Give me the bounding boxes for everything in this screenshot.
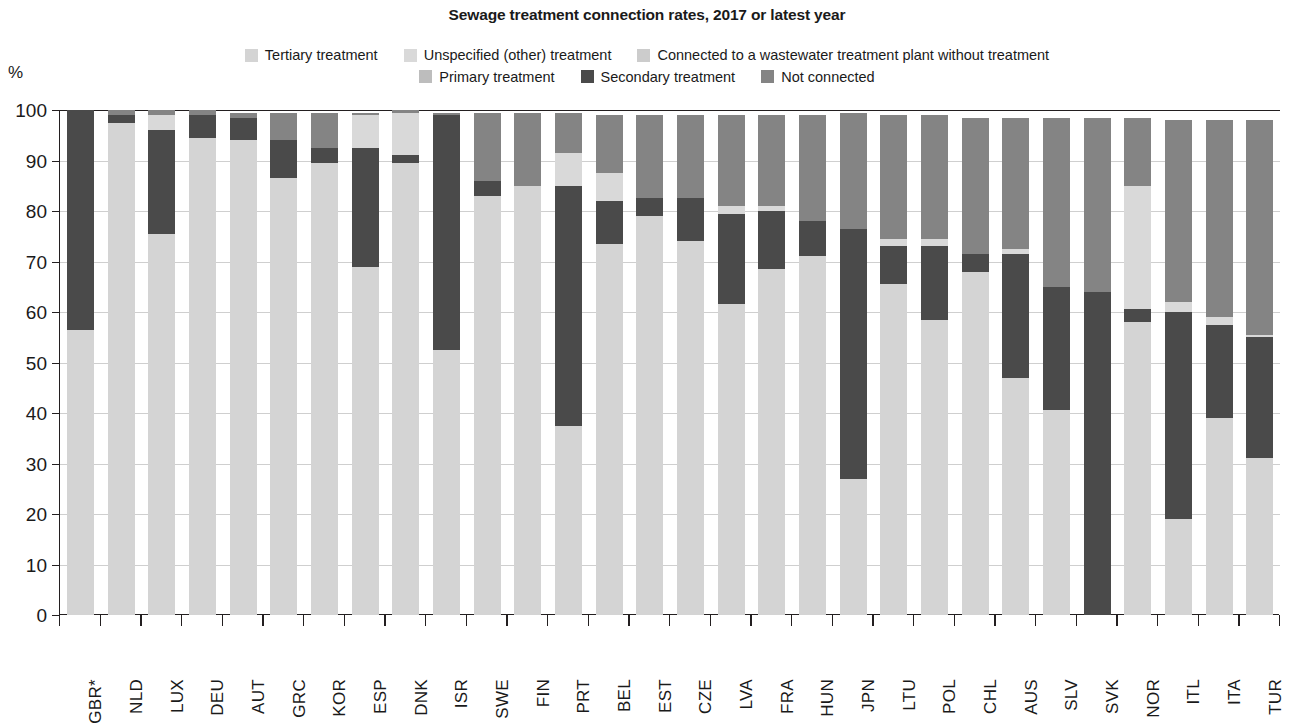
bar-segment[interactable] [148,130,175,234]
bar-segment[interactable] [718,206,745,214]
bar-segment[interactable] [67,110,94,330]
bar-group[interactable] [921,110,948,615]
bar-segment[interactable] [352,115,379,148]
bar-group[interactable] [230,110,257,615]
bar-segment[interactable] [1124,322,1151,615]
legend-item[interactable]: Not connected [761,70,875,85]
bar-segment[interactable] [392,155,419,163]
bar-segment[interactable] [108,123,135,615]
bar-segment[interactable] [1002,254,1029,378]
bar-group[interactable] [1124,110,1151,615]
bar-segment[interactable] [962,272,989,615]
bar-group[interactable] [433,110,460,615]
bar-segment[interactable] [433,115,460,350]
bar-group[interactable] [1165,110,1192,615]
bar-segment[interactable] [1206,325,1233,418]
bar-segment[interactable] [1165,302,1192,312]
bar-segment[interactable] [1246,335,1273,338]
bar-segment[interactable] [636,115,663,198]
bar-group[interactable] [555,110,582,615]
bar-segment[interactable] [474,196,501,615]
bar-segment[interactable] [1002,118,1029,249]
bar-segment[interactable] [189,115,216,138]
bar-segment[interactable] [1206,418,1233,615]
bar-segment[interactable] [311,163,338,615]
bar-group[interactable] [108,110,135,615]
bar-segment[interactable] [880,246,907,284]
bar-segment[interactable] [962,254,989,272]
bar-segment[interactable] [555,426,582,615]
bar-segment[interactable] [718,304,745,615]
bar-segment[interactable] [311,148,338,163]
bar-group[interactable] [1002,110,1029,615]
bar-segment[interactable] [352,113,379,116]
bar-segment[interactable] [718,214,745,305]
bar-segment[interactable] [270,140,297,178]
bar-segment[interactable] [433,350,460,615]
bar-group[interactable] [677,110,704,615]
bar-segment[interactable] [1002,249,1029,254]
bar-group[interactable] [1206,110,1233,615]
bar-segment[interactable] [799,256,826,615]
bar-segment[interactable] [1206,120,1233,317]
bar-segment[interactable] [1043,118,1070,287]
bar-segment[interactable] [1043,410,1070,615]
bar-segment[interactable] [1084,118,1111,292]
bar-segment[interactable] [840,229,867,479]
bar-segment[interactable] [636,198,663,216]
bar-segment[interactable] [189,110,216,115]
bar-segment[interactable] [1043,287,1070,411]
bar-segment[interactable] [108,115,135,123]
legend-item[interactable]: Secondary treatment [581,70,736,85]
bar-segment[interactable] [108,110,135,115]
bar-segment[interactable] [921,246,948,319]
bar-group[interactable] [352,110,379,615]
bar-segment[interactable] [758,211,785,269]
bar-segment[interactable] [799,115,826,221]
bar-group[interactable] [270,110,297,615]
bar-group[interactable] [596,110,623,615]
bar-segment[interactable] [718,115,745,206]
bar-segment[interactable] [474,181,501,196]
bar-segment[interactable] [474,113,501,181]
bar-segment[interactable] [880,115,907,239]
bar-segment[interactable] [555,113,582,153]
bar-segment[interactable] [311,113,338,148]
bar-segment[interactable] [596,201,623,244]
bar-segment[interactable] [840,113,867,229]
bar-segment[interactable] [636,216,663,615]
bar-segment[interactable] [352,267,379,615]
legend-item[interactable]: Tertiary treatment [245,48,378,63]
bar-group[interactable] [758,110,785,615]
bar-group[interactable] [189,110,216,615]
bar-segment[interactable] [352,148,379,267]
bar-segment[interactable] [270,113,297,141]
bar-segment[interactable] [758,115,785,206]
legend-item[interactable]: Unspecified (other) treatment [404,48,612,63]
bar-segment[interactable] [596,244,623,615]
bar-group[interactable] [636,110,663,615]
bar-group[interactable] [67,110,94,615]
bar-segment[interactable] [677,241,704,615]
bar-group[interactable] [1084,110,1111,615]
bar-segment[interactable] [758,269,785,615]
bar-group[interactable] [148,110,175,615]
bar-segment[interactable] [514,113,541,186]
bar-segment[interactable] [392,110,419,113]
bar-segment[interactable] [758,206,785,211]
bar-segment[interactable] [148,115,175,130]
bar-segment[interactable] [555,186,582,426]
bar-segment[interactable] [677,198,704,241]
bar-segment[interactable] [962,118,989,254]
bar-segment[interactable] [921,320,948,615]
bar-segment[interactable] [921,239,948,247]
bar-segment[interactable] [433,113,460,116]
bar-group[interactable] [799,110,826,615]
bar-segment[interactable] [67,330,94,615]
bar-segment[interactable] [840,479,867,615]
bar-segment[interactable] [148,110,175,115]
bar-group[interactable] [1043,110,1070,615]
bar-segment[interactable] [1165,312,1192,519]
bar-segment[interactable] [555,153,582,186]
bar-group[interactable] [718,110,745,615]
